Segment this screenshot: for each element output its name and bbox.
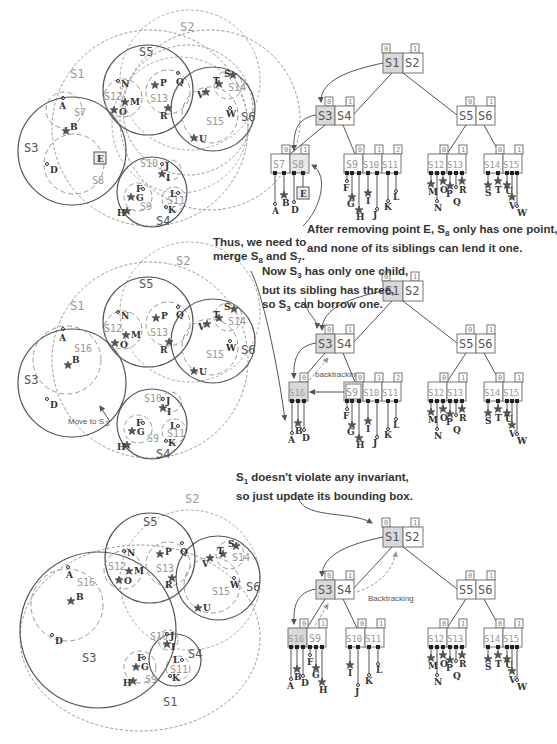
svg-text:Q: Q — [176, 310, 184, 320]
svg-text:J: J — [164, 161, 169, 171]
svg-text:H: H — [319, 685, 328, 695]
svg-text:0: 0 — [468, 98, 472, 106]
svg-text:1: 1 — [461, 374, 465, 382]
svg-text:L: L — [170, 189, 177, 199]
svg-text:S11: S11 — [382, 160, 398, 170]
svg-text:L: L — [393, 192, 400, 202]
svg-text:S3: S3 — [318, 583, 332, 597]
svg-text:R: R — [459, 659, 467, 669]
svg-text:0: 0 — [360, 620, 364, 628]
svg-text:S2: S2 — [405, 530, 419, 544]
svg-text:N: N — [434, 203, 442, 213]
svg-text:Q: Q — [176, 77, 184, 87]
svg-text:B: B — [72, 355, 80, 365]
svg-text:S10: S10 — [363, 160, 379, 170]
note-text: doesn't violate any invariant, — [248, 471, 409, 483]
svg-text:S13: S13 — [150, 93, 168, 104]
svg-text:1: 1 — [461, 146, 465, 154]
svg-text:S12: S12 — [108, 561, 126, 572]
note-text: Now S — [262, 265, 297, 277]
svg-text:S4: S4 — [337, 109, 351, 123]
svg-text:T: T — [495, 413, 502, 423]
svg-text:2: 2 — [396, 374, 400, 382]
svg-text:J: J — [169, 631, 174, 641]
svg-text:E: E — [300, 189, 307, 199]
svg-text:S16: S16 — [288, 634, 304, 644]
svg-text:W: W — [225, 109, 237, 119]
svg-text:Backtracking: Backtracking — [368, 594, 414, 603]
svg-text:0: 0 — [468, 572, 472, 580]
svg-text:W: W — [516, 208, 528, 218]
svg-text:S6: S6 — [478, 583, 492, 597]
svg-text:D: D — [291, 205, 299, 215]
svg-text:A: A — [271, 206, 280, 216]
svg-text:B: B — [70, 122, 78, 132]
svg-text:L: L — [376, 665, 383, 675]
svg-text:1: 1 — [489, 326, 493, 334]
svg-text:Q: Q — [180, 547, 188, 557]
svg-text:0: 0 — [442, 374, 446, 382]
svg-text:P: P — [446, 663, 453, 673]
note-text: can borrow one. — [291, 298, 383, 310]
panel-3-map: S1 S2 S3 S4 S5 S6 S16 S9 S10 S11 S12 S13… — [20, 492, 260, 731]
svg-text:A: A — [65, 570, 74, 580]
svg-text:S1: S1 — [385, 56, 399, 70]
svg-text:0: 0 — [302, 620, 306, 628]
svg-text:S13: S13 — [447, 160, 463, 170]
svg-text:H: H — [356, 212, 365, 222]
note-text: so just update its bounding box. — [236, 489, 413, 503]
svg-text:0: 0 — [442, 620, 446, 628]
svg-text:S16: S16 — [289, 388, 305, 398]
svg-text:O: O — [120, 340, 128, 350]
note-text: and S — [263, 250, 298, 262]
svg-text:M: M — [428, 415, 438, 425]
svg-text:1: 1 — [348, 98, 352, 106]
svg-text:S4: S4 — [337, 337, 351, 351]
note-s1-bounding-box: S1 doesn't violate any invariant, so jus… — [236, 470, 413, 503]
svg-text:K: K — [168, 205, 177, 215]
svg-text:1: 1 — [348, 326, 352, 334]
svg-text:1: 1 — [321, 620, 325, 628]
svg-text:S13: S13 — [447, 388, 463, 398]
svg-text:S6: S6 — [241, 110, 255, 124]
svg-text:S3: S3 — [318, 109, 332, 123]
svg-text:S: S — [224, 302, 231, 312]
svg-text:S3: S3 — [82, 651, 96, 665]
svg-text:S12: S12 — [428, 634, 444, 644]
svg-text:V: V — [196, 90, 205, 100]
svg-text:A: A — [58, 101, 67, 111]
svg-text:0: 0 — [498, 146, 502, 154]
svg-text:1: 1 — [377, 374, 381, 382]
svg-text:L: L — [173, 655, 180, 665]
svg-text:R: R — [160, 345, 168, 355]
svg-text:S3: S3 — [24, 141, 38, 155]
svg-text:S8: S8 — [92, 175, 104, 186]
svg-text:S: S — [485, 416, 492, 426]
svg-text:1: 1 — [517, 146, 521, 154]
svg-text:1: 1 — [413, 273, 417, 281]
svg-text:D: D — [55, 636, 63, 646]
svg-text:Q: Q — [453, 197, 461, 207]
note-text: only has one point, — [449, 223, 557, 235]
svg-text:S: S — [485, 188, 492, 198]
panel-2-map: S1 S2 S3 S4 S5 S6 S16 S9 S10 S11 S12 S13… — [18, 242, 260, 461]
svg-text:F: F — [307, 657, 314, 667]
svg-text:O: O — [124, 576, 132, 586]
svg-text:H: H — [123, 678, 132, 688]
svg-text:W: W — [516, 436, 528, 446]
svg-text:S: S — [224, 69, 231, 79]
svg-text:S5: S5 — [143, 515, 157, 529]
panel-1-map: S1 S2 S3 S4 S5 S6 S7 S8 S9 S10 S11 S12 S… — [18, 10, 300, 228]
svg-text:S16: S16 — [77, 577, 95, 588]
svg-text:I: I — [167, 407, 171, 417]
svg-text:F: F — [343, 183, 350, 193]
note-s3-borrow: Now S3 has only one child, but its sibli… — [262, 264, 408, 317]
svg-text:A: A — [58, 333, 67, 343]
svg-text:S6: S6 — [246, 580, 260, 594]
svg-text:0: 0 — [302, 374, 306, 382]
svg-text:S14: S14 — [484, 634, 500, 644]
svg-text:P: P — [160, 78, 167, 88]
svg-text:S3: S3 — [318, 337, 332, 351]
note-text: but its sibling has three, — [262, 283, 408, 297]
svg-text:N: N — [127, 548, 135, 558]
